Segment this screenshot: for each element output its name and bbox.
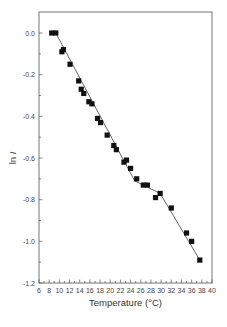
data-point <box>89 101 94 106</box>
x-tick-label: 36 <box>188 287 196 294</box>
data-point <box>114 147 119 152</box>
x-tick-label: 20 <box>106 287 114 294</box>
data-point <box>197 257 202 262</box>
y-tick-label: -0.2 <box>23 71 35 78</box>
x-tick-label: 10 <box>55 287 63 294</box>
x-tick-label: 38 <box>198 287 206 294</box>
y-tick-label: -0.4 <box>23 113 35 120</box>
x-tick-label: 40 <box>208 287 216 294</box>
data-point <box>98 120 103 125</box>
data-point <box>76 78 81 83</box>
data-point <box>189 239 194 244</box>
x-tick-label: 14 <box>76 287 84 294</box>
y-tick-label: -1.0 <box>23 238 35 245</box>
x-tick-label: 30 <box>157 287 165 294</box>
chart: 6810121416182022242628303234363840 0.0-0… <box>0 0 227 327</box>
data-point <box>53 30 58 35</box>
data-point <box>145 182 150 187</box>
data-point <box>105 132 110 137</box>
plot-frame <box>39 12 212 283</box>
data-points <box>49 30 202 262</box>
plot-border <box>39 12 212 283</box>
data-point <box>169 205 174 210</box>
x-tick-label: 26 <box>137 287 145 294</box>
y-axis-ticks: 0.0-0.2-0.4-0.6-0.8-1.0-1.2 <box>23 30 43 287</box>
x-tick-label: 16 <box>86 287 94 294</box>
data-point <box>128 166 133 171</box>
y-axis-title: ln I <box>7 151 18 164</box>
data-point <box>153 195 158 200</box>
fit-line <box>56 33 200 260</box>
data-point <box>81 91 86 96</box>
data-point <box>184 230 189 235</box>
x-axis-ticks: 6810121416182022242628303234363840 <box>37 280 216 295</box>
x-axis-title: Temperature (°C) <box>89 297 162 308</box>
x-tick-label: 28 <box>147 287 155 294</box>
x-tick-label: 18 <box>96 287 104 294</box>
data-point <box>67 62 72 67</box>
data-point <box>158 191 163 196</box>
x-tick-label: 34 <box>178 287 186 294</box>
y-tick-label: -1.2 <box>23 280 35 287</box>
data-point <box>61 47 66 52</box>
data-point <box>124 157 129 162</box>
y-tick-label: -0.6 <box>23 155 35 162</box>
x-tick-label: 12 <box>66 287 74 294</box>
y-tick-label: -0.8 <box>23 196 35 203</box>
x-tick-label: 6 <box>37 287 41 294</box>
y-tick-label: 0.0 <box>25 30 35 37</box>
data-point <box>134 176 139 181</box>
x-tick-label: 8 <box>47 287 51 294</box>
x-tick-label: 22 <box>117 287 125 294</box>
x-tick-label: 24 <box>127 287 135 294</box>
x-tick-label: 32 <box>167 287 175 294</box>
